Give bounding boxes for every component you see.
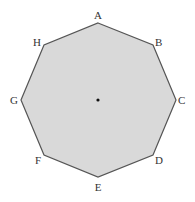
octagon-diagram: ABCDEFGH	[0, 0, 195, 202]
vertex-label-d: D	[155, 154, 163, 166]
vertex-label-c: C	[178, 94, 185, 106]
vertex-label-f: F	[35, 154, 41, 166]
vertex-label-a: A	[94, 9, 102, 21]
vertex-label-g: G	[10, 94, 18, 106]
center-point	[96, 98, 99, 101]
vertex-label-e: E	[95, 181, 102, 193]
vertex-label-h: H	[33, 36, 41, 48]
vertex-label-b: B	[155, 36, 162, 48]
